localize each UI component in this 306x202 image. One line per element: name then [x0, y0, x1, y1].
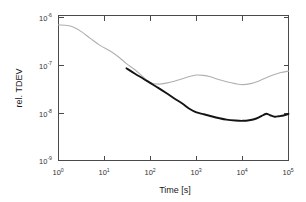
x-axis-ticks: [59, 16, 289, 161]
y-tick-exp-0: -6: [47, 12, 52, 18]
x-tick-labels: 100 101 102 103 104 105: [53, 167, 294, 177]
tdev-line-chart: 10-6 10-7 10-8 10-9 100 101 102 103 104 …: [0, 0, 306, 202]
y-tick-label-1e-6: 10-6: [39, 12, 52, 22]
series-light-gray-curve: [59, 25, 289, 85]
x-tick-label-1e1: 101: [99, 167, 110, 177]
x-tick-exp-1: 1: [107, 167, 110, 173]
x-tick-exp-2: 2: [153, 167, 156, 173]
y-axis-ticks: [59, 18, 289, 161]
x-tick-label-1e5: 105: [283, 167, 294, 177]
y-axis-title: rel. TDEV: [14, 69, 24, 108]
x-tick-exp-4: 4: [245, 167, 248, 173]
y-tick-exp-1: -7: [47, 60, 52, 66]
x-tick-exp-3: 3: [199, 167, 202, 173]
y-tick-exp-3: -9: [47, 155, 52, 161]
x-axis-title: Time [s]: [159, 185, 191, 195]
x-tick-label-1e3: 103: [191, 167, 202, 177]
y-tick-labels: 10-6 10-7 10-8 10-9: [39, 12, 52, 165]
y-tick-label-1e-9: 10-9: [39, 155, 52, 165]
x-tick-exp-5: 5: [291, 167, 294, 173]
data-series-group: [59, 25, 289, 121]
x-tick-exp-0: 0: [61, 167, 64, 173]
y-tick-exp-2: -8: [47, 108, 52, 114]
x-tick-label-1e2: 102: [145, 167, 156, 177]
axes-frame: [59, 16, 289, 161]
x-tick-label-1e0: 100: [53, 167, 64, 177]
y-tick-label-1e-8: 10-8: [39, 108, 52, 118]
figure-container: 10-6 10-7 10-8 10-9 100 101 102 103 104 …: [0, 0, 306, 202]
y-tick-label-1e-7: 10-7: [39, 60, 52, 70]
x-tick-label-1e4: 104: [237, 167, 248, 177]
